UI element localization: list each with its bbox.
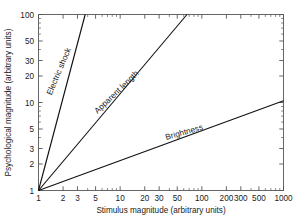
x-tick-label: 3 [75, 194, 80, 203]
x-tick-label: 10 [116, 194, 126, 203]
y-tick-label: 30 [25, 57, 35, 66]
stevens-power-law-log-log-plot: 1235102030501002003005001000 12351020305… [0, 0, 301, 224]
x-tick-label: 200 [220, 194, 234, 203]
y-axis-title: Psychological magnitude (arbitrary units… [4, 28, 13, 176]
x-tick-label: 1 [36, 194, 41, 203]
y-tick-label: 1 [29, 187, 34, 196]
x-tick-label: 500 [252, 194, 266, 203]
y-tick-label: 2 [29, 160, 34, 169]
x-axis-title: Stimulus magnitude (arbitrary units) [96, 206, 226, 215]
x-tick-label: 1000 [274, 194, 293, 203]
x-tick-label: 300 [234, 194, 248, 203]
y-tick-label: 3 [29, 145, 34, 154]
y-tick-label: 20 [25, 72, 35, 81]
x-tick-label: 30 [155, 194, 165, 203]
y-tick-label: 5 [29, 125, 34, 134]
y-tick-label: 10 [25, 99, 35, 108]
y-tick-label: 50 [25, 37, 35, 46]
y-tick-label: 100 [20, 11, 34, 20]
x-tick-label: 2 [61, 194, 66, 203]
x-tick-label: 5 [93, 194, 98, 203]
x-tick-label: 100 [195, 194, 209, 203]
chart-figure: 1235102030501002003005001000 12351020305… [0, 0, 301, 224]
x-tick-label: 50 [173, 194, 183, 203]
x-tick-label: 20 [140, 194, 150, 203]
